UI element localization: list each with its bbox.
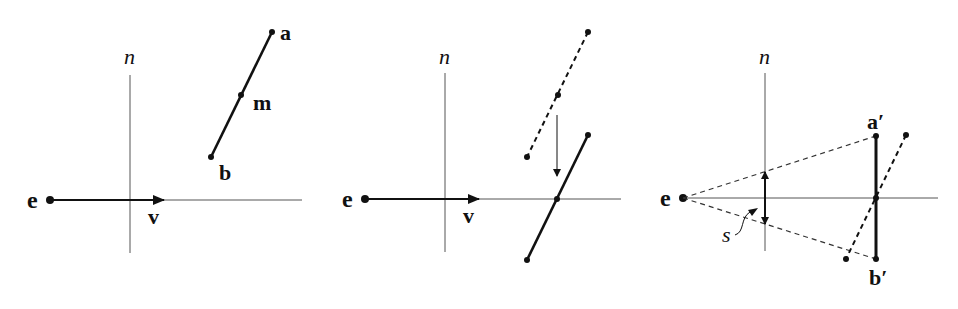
label-v: v (148, 204, 159, 229)
original-point-mid (555, 92, 561, 98)
point-b-prime (873, 256, 879, 262)
label-e: e (660, 185, 671, 211)
point-m (238, 92, 244, 98)
eye-point (361, 195, 369, 203)
point-b (208, 154, 214, 160)
moved-point-top (585, 132, 591, 138)
tilted-point-top (903, 132, 909, 138)
label-n: n (124, 44, 135, 69)
panel-1: n e v a m b (27, 20, 302, 253)
label-b-prime: b′ (869, 265, 887, 290)
figure-canvas: n e v a m b n e v (0, 0, 958, 309)
sight-line-to-a-prime (683, 136, 876, 198)
label-b: b (219, 160, 231, 185)
label-e: e (342, 186, 353, 212)
original-point-top (585, 29, 591, 35)
moved-point-bottom (524, 257, 530, 263)
label-n: n (759, 44, 770, 69)
point-a (269, 29, 275, 35)
point-center (873, 195, 879, 201)
label-n: n (439, 44, 450, 69)
label-v: v (463, 203, 474, 228)
size-pointer-arrowhead (748, 208, 758, 216)
label-s: s (722, 222, 731, 247)
moved-point-mid (554, 196, 560, 202)
label-m: m (253, 90, 271, 115)
label-a: a (280, 20, 291, 45)
sight-line-to-b-prime (683, 198, 876, 259)
panel-3: n e a′ b′ s (660, 44, 938, 290)
eye-point (46, 196, 54, 204)
label-e: e (27, 187, 38, 213)
original-point-bottom (524, 154, 530, 160)
label-a-prime: a′ (867, 109, 884, 134)
tilted-point-bottom (843, 256, 849, 262)
panel-2: n e v (342, 29, 621, 263)
